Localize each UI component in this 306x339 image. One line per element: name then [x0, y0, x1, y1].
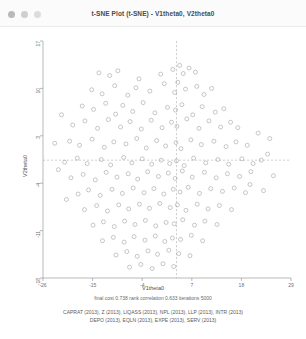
plot-region: -26-15-471829 17103-4-11-18 V1theta0 V2t… [0, 27, 306, 339]
scatter-points [53, 63, 276, 270]
stats-line: final cost 0.738 rank correlation 0.633 … [0, 295, 306, 301]
footnote: CAPRAT (2013), Z (2013), LIQASS (2013), … [0, 308, 306, 324]
t-sne-plot-window: t-SNE Plot (t-SNE) - V1theta0, V2theta0 … [0, 0, 306, 339]
window-titlebar: t-SNE Plot (t-SNE) - V1theta0, V2theta0 [0, 0, 306, 27]
footnote-line-2: DEPO (2013), EQLN (2013), EXPE (2013), S… [0, 316, 306, 324]
window-title: t-SNE Plot (t-SNE) - V1theta0, V2theta0 [0, 0, 306, 27]
axis-lines [43, 41, 291, 278]
y-axis-title: V2theta0 [22, 155, 28, 177]
y-tick-label: 10 [35, 88, 41, 126]
x-axis-title: V1theta0 [0, 285, 306, 291]
reference-lines [43, 41, 291, 278]
y-tick-label: 3 [35, 136, 41, 174]
y-tick-label: -11 [35, 231, 41, 269]
footnote-line-1: CAPRAT (2013), Z (2013), LIQASS (2013), … [0, 308, 306, 316]
scatter-plot-canvas [0, 27, 306, 339]
axis-ticks [40, 41, 291, 281]
y-tick-label: 17 [35, 41, 41, 79]
y-tick-label: -4 [35, 183, 41, 221]
